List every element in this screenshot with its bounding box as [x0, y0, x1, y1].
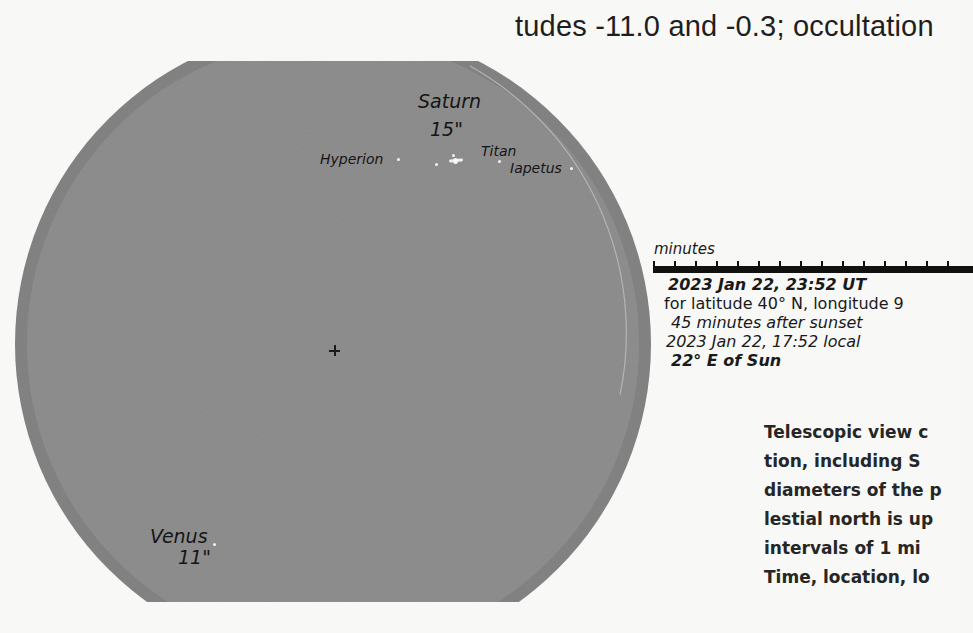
observer-location: for latitude 40° N, longitude 9 [664, 294, 904, 313]
venus-dot [213, 543, 216, 546]
elongation: 22° E of Sun [671, 351, 904, 370]
datetime-ut: 2023 Jan 22, 23:52 UT [668, 275, 904, 294]
time-after-sunset: 45 minutes after sunset [671, 313, 904, 332]
saturn-diameter: 15" [430, 118, 463, 140]
hyperion-label: Hyperion [320, 151, 383, 167]
minutes-scale-ticks [653, 261, 973, 267]
caption-line: lestial north is up [764, 505, 942, 534]
saturn-label: Saturn [418, 90, 481, 112]
caption-line: Telescopic view c [764, 418, 942, 447]
iapetus-label: Iapetus [510, 160, 562, 176]
venus-label: Venus [150, 525, 208, 547]
hyperion-dot [397, 158, 400, 161]
saturn-disk [449, 154, 467, 166]
field-center-crosshair-icon [329, 345, 340, 356]
iapetus-dot [570, 167, 573, 170]
scale-label: minutes [654, 240, 715, 258]
titan-dot [498, 160, 501, 163]
caption-line: tion, including S [764, 447, 942, 476]
venus-diameter: 11" [178, 546, 211, 568]
datetime-local: 2023 Jan 22, 17:52 local [666, 332, 904, 351]
observation-info: 2023 Jan 22, 23:52 UT for latitude 40° N… [668, 275, 904, 370]
figure-caption: Telescopic view c tion, including S diam… [764, 418, 942, 592]
minutes-scale-bar [653, 266, 973, 273]
caption-line: intervals of 1 mi [764, 534, 942, 563]
caption-line: Time, location, lo [764, 563, 942, 592]
titan-label: Titan [481, 143, 516, 159]
inner-moon-dot [435, 163, 438, 166]
caption-line: diameters of the p [764, 476, 942, 505]
